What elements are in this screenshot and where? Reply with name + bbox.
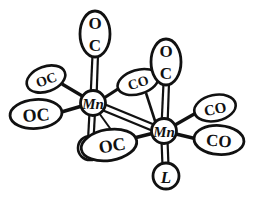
metal-center-mn-left: Mn (81, 91, 106, 116)
bond-mn-right-to-bridge-co (146, 93, 156, 124)
ligand-top-left-oc: O C (80, 11, 110, 57)
bond-mn-right-to-upper-right-co (175, 113, 196, 125)
ligand-lower-left-oc-label: OC (22, 104, 50, 126)
ligand-top-left-oc-label-c: C (89, 36, 101, 55)
ligand-lower-right-co-label: CO (206, 131, 233, 152)
bond-mn-left-to-upper-left-oc (62, 84, 84, 97)
structure-canvas: L O C OC OC CO O C (0, 0, 254, 200)
metal-center-mn-right: Mn (152, 119, 177, 144)
ligand-upper-right-co: CO (192, 91, 238, 125)
l-bottom-label: L (160, 168, 171, 187)
ligand-top-right-oc-label-o: O (159, 42, 172, 61)
ligand-top-right-oc-label-c: C (160, 64, 172, 83)
ligand-bottom-center-oc-label: OC (97, 134, 127, 158)
ligand-lower-left-oc: OC (9, 98, 63, 131)
ligand-top-right-oc: O C (151, 39, 181, 85)
mn-right-label: Mn (152, 124, 175, 140)
ligand-lower-right-co: CO (193, 124, 245, 156)
l-ligand-bottom: L (153, 163, 179, 189)
ligand-top-left-oc-label-o: O (88, 14, 101, 33)
ligand-upper-left-oc: OC (23, 60, 69, 97)
mn-left-label: Mn (81, 96, 104, 112)
chemical-structure-figure: L O C OC OC CO O C (0, 0, 254, 200)
